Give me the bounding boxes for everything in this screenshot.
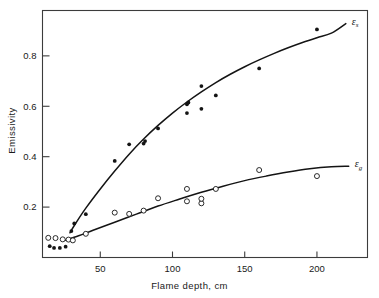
plot-frame bbox=[43, 11, 368, 258]
data-point-gas-emissivity bbox=[156, 196, 161, 201]
data-point-gas-emissivity bbox=[257, 168, 262, 173]
data-point-soot-emissivity bbox=[84, 212, 88, 216]
data-point-soot-emissivity bbox=[72, 222, 76, 226]
data-point-soot-emissivity bbox=[52, 246, 56, 250]
data-point-soot-emissivity bbox=[156, 127, 160, 131]
curve-soot-emissivity bbox=[70, 24, 346, 233]
data-point-soot-emissivity bbox=[186, 101, 190, 105]
data-point-soot-emissivity bbox=[214, 94, 218, 98]
y-tick-label: 0.4 bbox=[23, 151, 36, 162]
data-point-gas-emissivity bbox=[70, 238, 75, 243]
data-point-gas-emissivity bbox=[60, 237, 65, 242]
series-label-subscript-gas-emissivity: g bbox=[359, 164, 363, 172]
data-point-soot-emissivity bbox=[257, 67, 261, 71]
data-point-gas-emissivity bbox=[184, 186, 189, 191]
data-point-gas-emissivity bbox=[199, 196, 204, 201]
series-label-gas-emissivity: εg bbox=[355, 158, 363, 172]
emissivity-vs-flame-depth-chart: 501001502000.20.40.60.8 εsεg Flame depth… bbox=[0, 0, 379, 298]
data-point-soot-emissivity bbox=[58, 246, 62, 250]
data-point-gas-emissivity bbox=[46, 235, 51, 240]
data-points bbox=[46, 28, 320, 250]
y-axis-title: Emissivity bbox=[6, 91, 17, 171]
data-point-soot-emissivity bbox=[199, 107, 203, 111]
series-labels: εsεg bbox=[352, 16, 363, 172]
y-tick-label: 0.2 bbox=[23, 201, 36, 212]
data-point-soot-emissivity bbox=[64, 245, 68, 249]
series-label-soot-emissivity: εs bbox=[352, 16, 359, 30]
data-point-soot-emissivity bbox=[113, 159, 117, 163]
data-point-gas-emissivity bbox=[53, 236, 58, 241]
y-tick-label: 0.8 bbox=[23, 50, 36, 61]
data-point-soot-emissivity bbox=[48, 244, 52, 248]
axis-ticks bbox=[43, 56, 317, 258]
x-tick-label: 100 bbox=[165, 263, 181, 274]
series-label-subscript-soot-emissivity: s bbox=[356, 21, 359, 29]
data-point-gas-emissivity bbox=[112, 210, 117, 215]
curve-gas-emissivity bbox=[66, 166, 349, 240]
data-point-soot-emissivity bbox=[185, 111, 189, 115]
data-point-soot-emissivity bbox=[199, 84, 203, 88]
plot-canvas: 501001502000.20.40.60.8 εsεg bbox=[0, 0, 379, 298]
data-point-soot-emissivity bbox=[127, 142, 131, 146]
data-point-gas-emissivity bbox=[184, 199, 189, 204]
data-point-gas-emissivity bbox=[213, 186, 218, 191]
x-tick-label: 50 bbox=[95, 263, 106, 274]
data-point-soot-emissivity bbox=[69, 229, 73, 233]
data-point-soot-emissivity bbox=[143, 139, 147, 143]
data-point-soot-emissivity bbox=[315, 28, 319, 32]
fitted-curves bbox=[66, 24, 349, 241]
data-point-gas-emissivity bbox=[83, 231, 88, 236]
data-point-gas-emissivity bbox=[314, 174, 319, 179]
x-tick-label: 200 bbox=[309, 263, 325, 274]
data-point-gas-emissivity bbox=[127, 211, 132, 216]
y-tick-label: 0.6 bbox=[23, 101, 36, 112]
data-point-gas-emissivity bbox=[141, 208, 146, 213]
x-axis-title: Flame depth, cm bbox=[0, 280, 379, 291]
x-tick-label: 150 bbox=[237, 263, 253, 274]
